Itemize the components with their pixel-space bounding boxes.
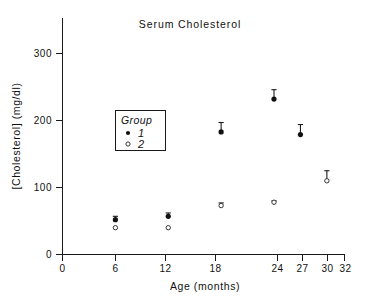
series-group-2 — [113, 171, 329, 230]
data-point-group-1 — [113, 217, 118, 222]
y-tick-label-200: 200 — [34, 115, 52, 126]
y-tick-label-300: 300 — [34, 48, 52, 59]
data-point-group-2 — [219, 203, 223, 207]
y-tick-label-100: 100 — [34, 182, 52, 193]
legend: Group 1 2 — [116, 111, 166, 151]
y-axis-ticks — [56, 54, 63, 255]
serum-cholesterol-scatter-plot: Serum Cholesterol 0 100 200 300 [Cholest… — [0, 0, 366, 300]
legend-marker-group-2-icon — [126, 142, 130, 146]
x-tick-label-32: 32 — [339, 263, 351, 274]
x-tick-label-27: 27 — [296, 263, 308, 274]
x-tick-label-30: 30 — [321, 263, 333, 274]
x-tick-label-24: 24 — [271, 263, 283, 274]
y-axis-tick-labels: 0 100 200 300 — [34, 48, 52, 260]
x-tick-label-18: 18 — [209, 263, 221, 274]
x-axis-title: Age (months) — [170, 280, 240, 292]
data-point-group-1 — [298, 132, 303, 137]
x-axis-ticks — [63, 255, 345, 262]
data-point-group-1 — [271, 96, 276, 101]
data-point-group-2 — [325, 179, 329, 183]
legend-title: Group — [121, 114, 152, 126]
chart-container: Serum Cholesterol 0 100 200 300 [Cholest… — [0, 0, 366, 300]
x-axis-tick-labels: 0 6 12 18 24 27 30 32 — [59, 263, 351, 274]
chart-title: Serum Cholesterol — [139, 18, 241, 30]
legend-label-group-2: 2 — [137, 138, 144, 150]
data-point-group-1 — [219, 129, 224, 134]
x-tick-label-0: 0 — [59, 263, 65, 274]
x-tick-label-6: 6 — [112, 263, 118, 274]
x-tick-label-12: 12 — [159, 263, 171, 274]
data-point-group-2 — [166, 226, 170, 230]
data-point-group-2 — [272, 200, 276, 204]
legend-marker-group-1-icon — [126, 131, 130, 135]
data-point-group-2 — [113, 226, 117, 230]
data-point-group-1 — [166, 214, 171, 219]
y-tick-label-0: 0 — [46, 249, 52, 260]
y-axis-title: [Cholesterol] (mg/dl) — [10, 82, 22, 189]
